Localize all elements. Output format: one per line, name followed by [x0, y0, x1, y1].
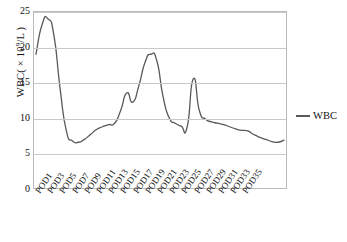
- legend-label-wbc: WBC: [313, 110, 337, 121]
- gridline-5: [34, 154, 286, 155]
- x-axis-tick-labels: POD1POD3POD5POD7POD9POD11POD13POD15POD17…: [33, 190, 287, 242]
- series-wbc-line: [34, 12, 286, 188]
- wbc-data-path: [36, 16, 284, 143]
- y-tick-label-5: 5: [12, 148, 30, 158]
- y-tick-label-15: 15: [12, 77, 30, 87]
- y-tick-label-25: 25: [12, 6, 30, 16]
- gridline-10: [34, 119, 286, 120]
- legend-line-swatch: [296, 115, 310, 117]
- plot-area: [33, 11, 287, 189]
- y-tick-label-0: 0: [12, 184, 30, 194]
- wbc-line-chart: WBC( × 109/L ) 0510152025 POD1POD3POD5PO…: [0, 0, 347, 242]
- y-tick-label-10: 10: [12, 113, 30, 123]
- chart-legend: WBC: [296, 110, 337, 121]
- y-tick-label-20: 20: [12, 42, 30, 52]
- y-axis-tick-labels: 0510152025: [8, 0, 30, 242]
- gridline-15: [34, 83, 286, 84]
- gridline-20: [34, 48, 286, 49]
- gridline-25: [34, 12, 286, 13]
